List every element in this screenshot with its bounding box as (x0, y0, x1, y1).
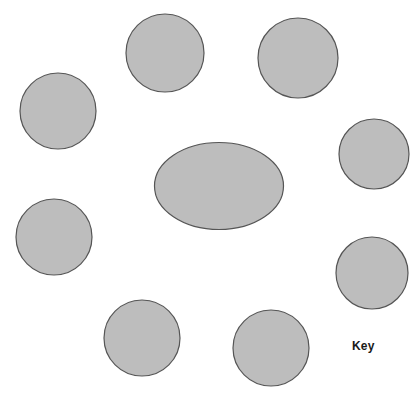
diagram-shapes (0, 0, 419, 393)
node-upper-left[interactable] (20, 73, 96, 149)
key-label: Key (352, 340, 375, 352)
node-top-right[interactable] (258, 18, 338, 98)
node-right-upper[interactable] (339, 119, 409, 189)
node-bottom-left[interactable] (104, 300, 180, 376)
node-right-lower[interactable] (336, 237, 408, 309)
node-left-middle[interactable] (16, 199, 92, 275)
central-ellipse[interactable] (155, 143, 284, 230)
node-top-center[interactable] (126, 14, 204, 92)
node-bottom-center[interactable] (233, 310, 309, 386)
diagram-canvas: Key (0, 0, 419, 393)
